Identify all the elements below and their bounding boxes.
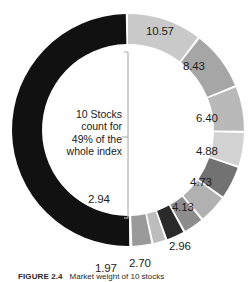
center-leader-line xyxy=(122,52,128,218)
figure-caption-text: Market weight of 10 stocks xyxy=(70,272,165,281)
figure-container: 10.578.436.404.884.734.132.962.701.972.9… xyxy=(0,0,252,282)
center-note-line-2: count for xyxy=(40,120,122,132)
slice-value-label: 2.96 xyxy=(169,240,191,252)
slice-value-label: 10.57 xyxy=(146,25,174,37)
slice-value-label: 2.70 xyxy=(129,257,151,269)
slice-value-label: 4.73 xyxy=(190,176,212,188)
center-note-line-4: whole index xyxy=(40,145,122,157)
figure-caption: FIGURE 2.4Market weight of 10 stocks xyxy=(18,272,164,281)
slice-value-label: 4.88 xyxy=(196,145,218,157)
center-note-line-1: 10 Stocks xyxy=(40,108,122,120)
center-annotation: 10 Stocks count for 49% of the whole ind… xyxy=(40,108,122,158)
donut-slice[interactable] xyxy=(128,14,198,61)
figure-caption-number: FIGURE 2.4 xyxy=(18,272,63,281)
center-note-line-3: 49% of the xyxy=(40,133,122,145)
slice-value-label: 2.94 xyxy=(88,193,110,205)
slice-value-label: 4.13 xyxy=(172,201,194,213)
donut-chart xyxy=(0,0,252,282)
slice-value-label: 6.40 xyxy=(196,112,218,124)
slice-value-label: 8.43 xyxy=(183,60,205,72)
